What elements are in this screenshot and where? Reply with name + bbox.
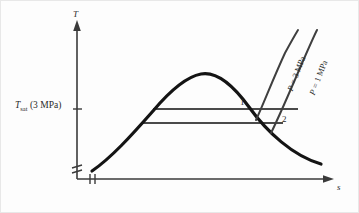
y-axis <box>73 20 81 179</box>
y-axis-label: T <box>73 10 78 19</box>
state-point-1-label: 1 <box>240 98 245 107</box>
tsat-pressure-text: (3 MPa) <box>28 100 62 110</box>
ts-diagram-figure: T s Tsat (3 MPa) 1 2 P = 3 MPa P = 1 MPa <box>0 0 359 213</box>
state-point-2-label: 2 <box>282 115 287 124</box>
tsat-axis-tick-label: Tsat (3 MPa) <box>15 101 61 112</box>
x-axis-label: s <box>337 183 341 192</box>
y-axis-arrowhead <box>73 20 81 31</box>
x-axis <box>77 175 334 183</box>
tsat-subscript: sat <box>20 105 27 112</box>
x-axis-arrowhead <box>323 175 334 183</box>
